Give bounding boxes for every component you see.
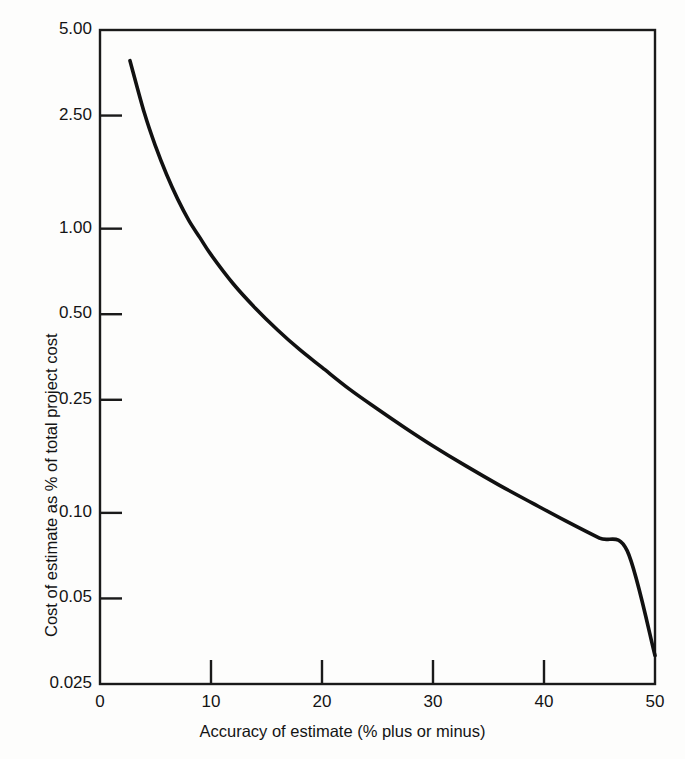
x-axis-title: Accuracy of estimate (% plus or minus) (0, 722, 685, 741)
x-tick-label: 10 (171, 692, 251, 712)
figure-background (0, 0, 685, 759)
x-tick-label: 20 (282, 692, 362, 712)
x-tick-label: 40 (504, 692, 584, 712)
y-tick-label: 1.00 (2, 218, 92, 238)
y-tick-label: 5.00 (2, 19, 92, 39)
y-tick-label: 2.50 (2, 105, 92, 125)
chart-figure: 5.002.501.000.500.250.100.050.025 010203… (0, 0, 685, 759)
y-tick-label: 0.50 (2, 303, 92, 323)
x-tick-label: 30 (393, 692, 473, 712)
chart-canvas (0, 0, 685, 759)
y-axis-title: Cost of estimate as % of total project c… (42, 333, 61, 637)
y-tick-label: 0.025 (2, 673, 92, 693)
x-tick-label: 50 (615, 692, 685, 712)
x-tick-label: 0 (60, 692, 140, 712)
